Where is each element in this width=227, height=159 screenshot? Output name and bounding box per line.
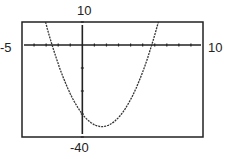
parabola-curve (34, 0, 173, 127)
axes (24, 22, 201, 137)
graph-canvas (0, 0, 227, 159)
window-frame (22, 22, 203, 137)
